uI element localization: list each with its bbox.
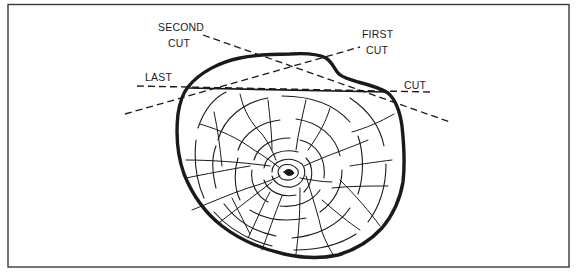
sawn-face-line	[188, 88, 386, 92]
last-cut-label-left: LAST	[145, 71, 172, 83]
first-cut-label-line1: FIRST	[362, 28, 394, 40]
pith	[284, 169, 294, 175]
diagram-frame	[8, 5, 569, 268]
first-cut-label-line2: CUT	[366, 44, 389, 56]
log-cutting-diagram: SECOND CUT FIRST CUT LAST CUT	[0, 0, 576, 275]
cut-labels: SECOND CUT FIRST CUT LAST CUT	[145, 21, 427, 91]
log-bark-outline	[177, 54, 404, 258]
second-cut-label-line2: CUT	[168, 37, 191, 49]
last-cut-label-right: CUT	[404, 79, 427, 91]
log-cross-section	[177, 54, 404, 258]
second-cut-label-line1: SECOND	[158, 21, 204, 33]
